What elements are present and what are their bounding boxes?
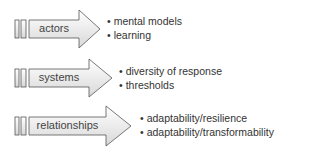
relationships-bullets: adaptability/resilience adaptability/tra… [140,111,274,139]
bullet-item: learning [107,28,182,42]
bullet-item: adaptability/transformability [140,125,274,139]
systems-bullets: diversity of response thresholds [119,64,222,92]
bullet-item: adaptability/resilience [140,111,274,125]
actors-bullets: mental models learning [107,14,182,42]
bullet-item: diversity of response [119,64,222,78]
relationships-label: relationships [29,119,106,131]
actors-label: actors [29,22,79,34]
systems-label: systems [29,71,89,83]
bullet-item: mental models [107,14,182,28]
bullet-item: thresholds [119,78,222,92]
